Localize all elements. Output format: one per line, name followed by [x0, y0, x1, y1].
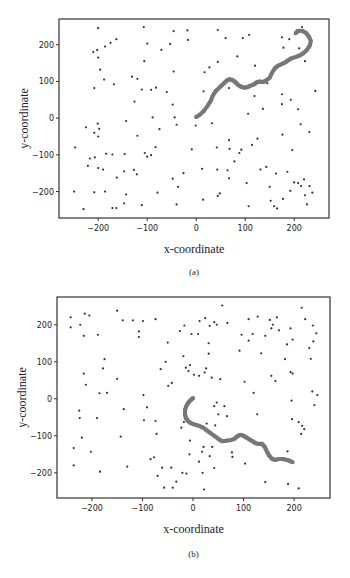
data-point: [126, 465, 128, 467]
data-point: [300, 185, 302, 187]
data-point: [198, 320, 200, 322]
data-point: [195, 124, 197, 126]
data-point: [103, 358, 105, 360]
data-point: [304, 194, 306, 196]
y-tick-label: 100: [39, 77, 54, 86]
data-point: [253, 392, 255, 394]
data-point: [116, 177, 118, 179]
data-point: [150, 154, 152, 156]
data-point: [242, 37, 244, 39]
data-point: [187, 39, 189, 41]
data-point: [96, 417, 98, 419]
data-point: [313, 404, 315, 406]
data-point: [300, 433, 302, 435]
data-point: [301, 26, 303, 28]
data-point: [125, 193, 127, 195]
data-point: [211, 377, 213, 379]
data-point: [102, 367, 104, 369]
data-point: [290, 400, 292, 402]
scatter-plot-b: −200−1000100200−200−1000100200x-coordina…: [0, 285, 350, 578]
data-point: [289, 327, 291, 329]
data-point: [73, 464, 75, 466]
data-point: [189, 440, 191, 442]
figure-caption: (a): [189, 267, 199, 277]
data-point: [312, 340, 314, 342]
data-point: [85, 384, 87, 386]
data-point: [183, 421, 185, 423]
data-point: [219, 192, 221, 194]
data-point: [293, 181, 295, 183]
data-point: [233, 160, 235, 162]
data-point: [208, 66, 210, 68]
data-point: [281, 134, 283, 136]
data-point: [98, 128, 100, 130]
data-point: [228, 87, 230, 89]
data-point: [217, 29, 219, 31]
data-point: [238, 152, 240, 154]
data-point: [274, 380, 276, 382]
data-point: [150, 89, 152, 91]
data-point: [272, 324, 274, 326]
data-point: [290, 99, 292, 101]
data-point: [125, 120, 127, 122]
data-point: [154, 420, 156, 422]
y-tick-label: 100: [37, 358, 52, 367]
data-point: [217, 413, 219, 415]
data-point: [303, 178, 305, 180]
data-point: [303, 428, 305, 430]
data-point: [143, 419, 145, 421]
data-point: [217, 195, 219, 197]
data-point: [161, 467, 163, 469]
data-point: [253, 95, 255, 97]
data-point: [269, 186, 271, 188]
data-point: [286, 171, 288, 173]
data-point: [238, 350, 240, 352]
data-point: [286, 450, 288, 452]
y-tick-label: −100: [32, 151, 54, 160]
x-tick-label: −200: [87, 224, 109, 233]
data-point: [183, 324, 185, 326]
data-point: [286, 343, 288, 345]
data-point: [136, 78, 138, 80]
data-point: [158, 128, 160, 130]
y-tick-label: 0: [49, 114, 54, 123]
data-point: [90, 451, 92, 453]
data-point: [202, 90, 204, 92]
data-point: [85, 126, 87, 128]
data-point: [304, 60, 306, 62]
data-point: [288, 38, 290, 40]
data-point: [225, 37, 227, 39]
x-tick-label: 0: [190, 504, 195, 513]
data-point: [169, 43, 171, 45]
data-point: [264, 335, 266, 337]
data-point: [160, 49, 162, 51]
data-point: [92, 51, 94, 53]
data-point: [173, 70, 175, 72]
trajectory-marker: [290, 460, 294, 464]
data-point: [155, 87, 157, 89]
data-point: [97, 56, 99, 58]
data-point: [306, 203, 308, 205]
data-point: [243, 381, 245, 383]
data-point: [244, 462, 246, 464]
data-point: [73, 447, 75, 449]
data-point: [176, 124, 178, 126]
data-point: [228, 148, 230, 150]
data-point: [88, 314, 90, 316]
data-point: [216, 146, 218, 148]
plot-frame: [59, 19, 329, 218]
data-point: [146, 406, 148, 408]
data-point: [185, 472, 187, 474]
data-point: [298, 421, 300, 423]
x-axis-title: x-coordinate: [164, 242, 225, 256]
data-point: [141, 88, 143, 90]
data-point: [291, 418, 293, 420]
data-point: [226, 169, 228, 171]
data-point: [259, 168, 261, 170]
data-point: [111, 153, 113, 155]
x-tick-label: 0: [194, 224, 199, 233]
data-point: [94, 156, 96, 158]
data-point: [167, 385, 169, 387]
data-point: [97, 135, 99, 137]
x-axis-title: x-coordinate: [163, 522, 224, 536]
